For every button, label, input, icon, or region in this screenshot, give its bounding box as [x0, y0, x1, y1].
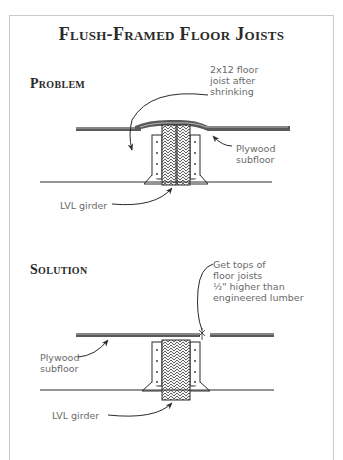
solution-hanger-left — [142, 342, 162, 391]
solution-hanger-right — [190, 342, 210, 391]
problem-plywood-left — [76, 127, 141, 131]
solution-drawing — [40, 264, 274, 416]
problem-plywood-right — [135, 120, 290, 131]
problem-hanger-right — [190, 135, 208, 184]
problem-drawing — [40, 94, 290, 205]
solution-lvl-girder — [162, 340, 190, 400]
problem-lvl-ply-1 — [162, 125, 176, 185]
solution-plywood-right — [210, 333, 274, 337]
solution-plywood-left — [76, 333, 200, 337]
problem-lvl-ply-2 — [177, 125, 190, 185]
problem-hanger-left — [144, 135, 162, 184]
